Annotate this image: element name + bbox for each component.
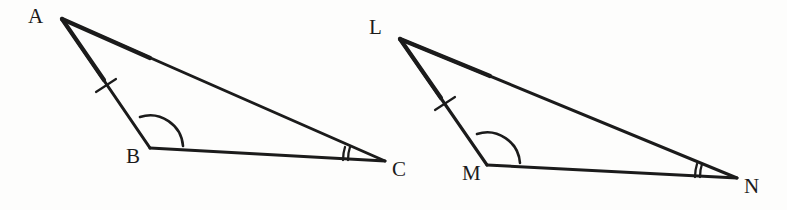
geometry-diagram: A B C L M N <box>0 0 787 210</box>
vertex-label-a: A <box>28 6 43 27</box>
vertex-label-l: L <box>369 17 382 38</box>
vertex-label-c: C <box>392 159 406 180</box>
vertex-label-n: N <box>744 176 759 197</box>
vertex-label-b: B <box>126 146 140 167</box>
triangle-abc <box>62 19 385 161</box>
vertex-label-m: M <box>462 163 481 184</box>
triangle-lmn <box>400 39 737 178</box>
tick-mark-lm <box>435 97 455 110</box>
